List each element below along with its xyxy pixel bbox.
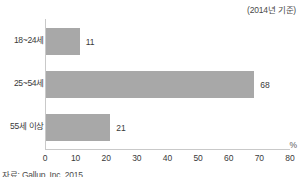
x-tick-label: 50	[193, 153, 202, 163]
x-tick-label: 40	[163, 153, 172, 163]
bar-2	[46, 114, 110, 141]
category-label-0: 18~24세	[0, 33, 44, 45]
bar-1	[46, 71, 254, 98]
source-note: 자료: Gallup, Inc. 2015	[2, 168, 83, 177]
chart-note: (2014년 기준)	[247, 3, 296, 15]
category-label-2: 55세 이상	[0, 119, 44, 131]
x-tick-label: 80	[285, 153, 294, 163]
category-label-1: 25~54세	[0, 76, 44, 88]
bar-value-0: 11	[80, 37, 95, 47]
x-axis-line	[45, 149, 290, 150]
x-axis-unit-label: %	[289, 140, 297, 150]
bar-0	[46, 28, 80, 55]
x-tick-label: 20	[102, 153, 111, 163]
x-tick-label: 10	[71, 153, 80, 163]
x-tick-label: 30	[132, 153, 141, 163]
x-tick-label: 70	[255, 153, 264, 163]
plot-area: 11 68 21	[45, 19, 290, 150]
x-tick-label: 60	[224, 153, 233, 163]
bar-chart: (2014년 기준) 11 68 21 18~24세 25~54세 55세 이상…	[0, 0, 300, 177]
bar-value-1: 68	[254, 80, 269, 90]
x-tick-label: 0	[43, 153, 48, 163]
bar-value-2: 21	[110, 123, 125, 133]
